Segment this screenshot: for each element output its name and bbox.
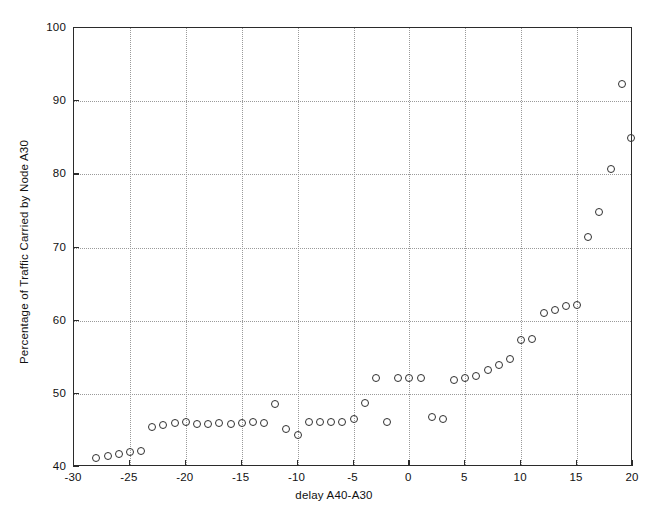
y-tick-mark [73,320,79,321]
gridline-vertical [577,28,578,465]
data-point-marker [227,420,235,428]
y-tick-label: 40 [32,460,66,472]
data-point-marker [249,418,257,426]
data-point-marker [428,413,436,421]
gridline-horizontal [74,248,631,249]
y-tick-mark [73,100,79,101]
x-tick-mark [408,460,409,466]
gridline-vertical [465,28,466,465]
y-tick-mark [73,247,79,248]
y-tick-label: 90 [32,94,66,106]
data-point-marker [350,415,358,423]
x-tick-label: -10 [288,471,305,483]
gridline-horizontal [74,174,631,175]
x-tick-label: -5 [347,471,358,483]
gridline-horizontal [74,394,631,395]
y-tick-mark [73,173,79,174]
data-point-marker [528,335,536,343]
plot-area [73,27,632,466]
y-tick-label: 50 [32,387,66,399]
data-point-marker [327,418,335,426]
x-tick-mark [73,460,74,466]
data-point-marker [484,366,492,374]
data-point-marker [148,423,156,431]
x-tick-mark [241,460,242,466]
scatter-chart-figure: 405060708090100 -30-25-20-15-10-50510152… [0,0,668,525]
data-point-marker [338,418,346,426]
data-point-marker [305,418,313,426]
x-tick-label: 0 [405,471,412,483]
x-tick-mark [520,460,521,466]
data-point-marker [450,376,458,384]
data-point-marker [92,454,100,462]
data-point-marker [104,452,112,460]
y-tick-mark [73,27,79,28]
gridline-vertical [354,28,355,465]
data-point-marker [271,400,279,408]
data-point-marker [260,419,268,427]
data-point-marker [159,421,167,429]
data-point-marker [517,336,525,344]
data-point-marker [361,399,369,407]
y-tick-label: 100 [32,21,66,33]
data-point-marker [115,450,123,458]
gridline-vertical [130,28,131,465]
data-point-marker [204,420,212,428]
data-point-marker [618,80,626,88]
data-point-marker [595,208,603,216]
data-point-marker [461,374,469,382]
data-point-marker [573,301,581,309]
data-point-marker [405,374,413,382]
data-point-marker [182,418,190,426]
data-point-marker [316,418,324,426]
data-point-marker [627,134,635,142]
x-axis-title: delay A40-A30 [0,489,668,501]
x-tick-mark [129,460,130,466]
x-tick-label: 15 [569,471,582,483]
y-tick-mark [73,466,79,467]
data-point-marker [282,425,290,433]
x-tick-label: 5 [461,471,468,483]
gridline-vertical [298,28,299,465]
data-point-marker [506,355,514,363]
data-point-marker [126,448,134,456]
gridline-vertical [521,28,522,465]
x-tick-label: -20 [176,471,193,483]
data-point-marker [439,415,447,423]
data-point-marker [562,302,570,310]
data-point-marker [607,165,615,173]
data-point-marker [383,418,391,426]
data-point-marker [193,420,201,428]
data-point-marker [472,372,480,380]
gridline-horizontal [74,321,631,322]
x-tick-label: 20 [625,471,638,483]
gridlines [74,28,631,465]
y-axis-title: Percentage of Traffic Carried by Node A3… [18,42,30,462]
data-point-marker [171,419,179,427]
y-tick-label: 70 [32,241,66,253]
data-point-marker [551,306,559,314]
x-tick-mark [185,460,186,466]
data-point-marker [294,431,302,439]
gridline-vertical [186,28,187,465]
x-tick-mark [353,460,354,466]
x-tick-label: -30 [64,471,81,483]
gridline-horizontal [74,101,631,102]
x-tick-mark [464,460,465,466]
data-point-marker [394,374,402,382]
data-point-marker [215,419,223,427]
data-point-marker [238,419,246,427]
data-point-marker [584,233,592,241]
data-point-marker [417,374,425,382]
gridline-vertical [409,28,410,465]
data-point-marker [372,374,380,382]
y-tick-mark [73,393,79,394]
x-tick-mark [297,460,298,466]
y-tick-label: 80 [32,167,66,179]
data-point-marker [495,361,503,369]
data-point-marker [540,309,548,317]
x-tick-label: 10 [514,471,527,483]
data-points-layer [74,28,631,465]
gridline-vertical [242,28,243,465]
x-tick-mark [576,460,577,466]
